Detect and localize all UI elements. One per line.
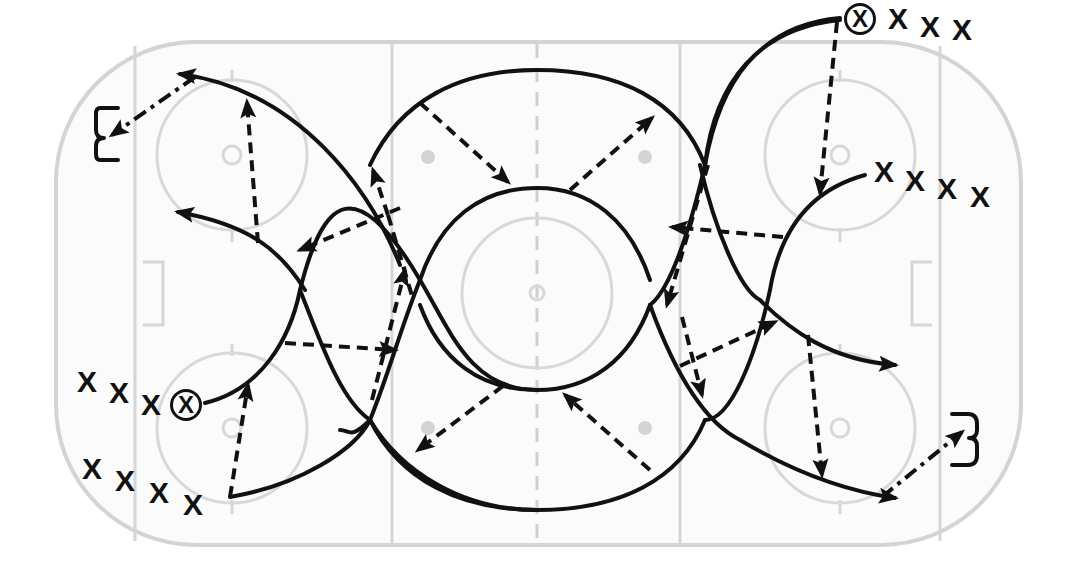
player-right-inner-4: X: [970, 182, 990, 212]
neutral-dot: [638, 421, 652, 435]
player-left-top-2: X: [109, 378, 129, 408]
player-left-top-1: X: [77, 367, 97, 397]
player-right-top-2: X: [920, 12, 940, 42]
neutral-dot: [421, 421, 435, 435]
puck-carrier-right: X: [844, 3, 876, 35]
player-right-top-1: X: [888, 4, 908, 34]
player-right-inner-1: X: [874, 157, 894, 187]
puck-carrier-right-label: X: [852, 5, 868, 33]
hockey-drill-diagram: X X X X X X X X X X X X X X X X: [0, 0, 1065, 572]
player-right-inner-2: X: [905, 166, 925, 196]
neutral-dot: [638, 150, 652, 164]
puck-carrier-left: X: [170, 389, 202, 421]
player-left-bottom-3: X: [149, 478, 169, 508]
player-left-bottom-2: X: [115, 466, 135, 496]
player-right-top-3: X: [952, 15, 972, 45]
neutral-dot: [421, 150, 435, 164]
puck-carrier-left-label: X: [178, 391, 194, 419]
player-left-bottom-4: X: [183, 490, 203, 520]
player-right-inner-3: X: [937, 174, 957, 204]
player-left-bottom-1: X: [82, 454, 102, 484]
player-left-top-3: X: [141, 390, 161, 420]
